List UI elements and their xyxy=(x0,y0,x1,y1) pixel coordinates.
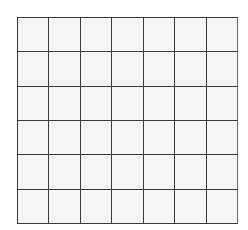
grid-cell xyxy=(175,155,206,189)
grid-cell xyxy=(49,121,80,155)
grid-cell xyxy=(18,52,49,86)
grid-cell xyxy=(207,190,238,224)
grid-cell xyxy=(81,52,112,86)
grid-cell xyxy=(207,18,238,52)
grid-cell xyxy=(144,190,175,224)
grid-cell xyxy=(144,87,175,121)
grid-cell xyxy=(144,18,175,52)
grid-cell xyxy=(112,121,143,155)
grid-cell xyxy=(175,190,206,224)
grid-cell xyxy=(49,18,80,52)
grid-cell xyxy=(81,87,112,121)
grid-cell xyxy=(18,87,49,121)
grid-cell xyxy=(81,155,112,189)
grid-cell xyxy=(144,121,175,155)
grid-cell xyxy=(112,52,143,86)
grid-cell xyxy=(112,190,143,224)
grid-cell xyxy=(207,155,238,189)
grid-cell xyxy=(144,52,175,86)
grid-cell xyxy=(81,121,112,155)
grid-cell xyxy=(175,52,206,86)
grid-cell xyxy=(81,18,112,52)
grid-cell xyxy=(18,155,49,189)
grid-cell xyxy=(81,190,112,224)
grid-cell xyxy=(49,87,80,121)
grid-cell xyxy=(112,18,143,52)
grid-cell xyxy=(112,87,143,121)
canvas xyxy=(0,0,248,230)
grid-cell xyxy=(207,87,238,121)
empty-grid xyxy=(17,17,238,224)
grid-cell xyxy=(175,87,206,121)
grid-cell xyxy=(49,155,80,189)
grid-cell xyxy=(175,18,206,52)
grid-cell xyxy=(18,121,49,155)
grid-cell xyxy=(207,52,238,86)
grid-cell xyxy=(49,52,80,86)
grid-cell xyxy=(18,18,49,52)
grid-cell xyxy=(49,190,80,224)
grid-cell xyxy=(175,121,206,155)
grid-cell xyxy=(207,121,238,155)
grid-cell xyxy=(112,155,143,189)
grid-cell xyxy=(144,155,175,189)
grid-cell xyxy=(18,190,49,224)
